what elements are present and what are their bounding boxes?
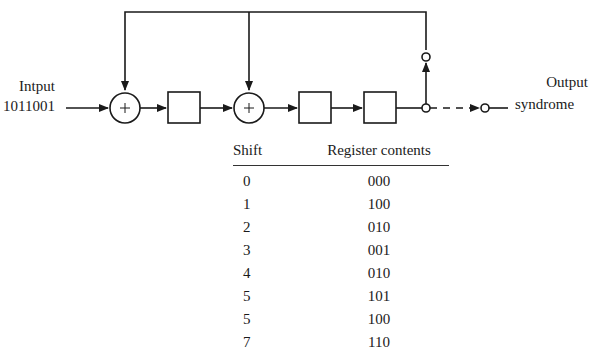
contents-cell: 010: [291, 216, 449, 239]
contents-cell: 100: [291, 308, 449, 331]
contents-cell: 100: [291, 193, 449, 216]
table-row: 0000: [233, 166, 449, 194]
output-label: Output: [540, 74, 593, 91]
register-1: [168, 92, 200, 123]
shift-cell: 5: [233, 285, 291, 308]
shift-cell: 0: [233, 166, 291, 194]
shift-cell: 1: [233, 193, 291, 216]
table-row: 2010: [233, 216, 449, 239]
header-contents: Register contents: [291, 142, 449, 166]
shift-cell: 4: [233, 262, 291, 285]
table-row: 5100: [233, 308, 449, 331]
table-row: 3001: [233, 239, 449, 262]
output-label-syndrome: syndrome: [515, 96, 574, 113]
table-row: 5101: [233, 285, 449, 308]
table-row: 7110: [233, 331, 449, 354]
shift-cell: 5: [233, 308, 291, 331]
register-table: Shift Register contents 0000 1100 2010 3…: [233, 142, 449, 354]
switch-contact-top: [422, 53, 430, 61]
input-label: Intput: [12, 78, 62, 95]
input-bits: 1011001: [3, 98, 55, 115]
register-2: [299, 92, 331, 123]
contents-cell: 110: [291, 331, 449, 354]
contents-cell: 010: [291, 262, 449, 285]
feedback-line: [125, 12, 426, 90]
syndrome-circuit: [0, 0, 593, 140]
contents-cell: 001: [291, 239, 449, 262]
shift-cell: 2: [233, 216, 291, 239]
shift-cell: 7: [233, 331, 291, 354]
table-row: 1100: [233, 193, 449, 216]
table-row: 4010: [233, 262, 449, 285]
contents-cell: 000: [291, 166, 449, 194]
header-shift: Shift: [233, 142, 291, 166]
junction-node: [422, 104, 430, 112]
register-3: [364, 92, 396, 123]
shift-cell: 3: [233, 239, 291, 262]
contents-cell: 101: [291, 285, 449, 308]
output-node: [481, 104, 489, 112]
